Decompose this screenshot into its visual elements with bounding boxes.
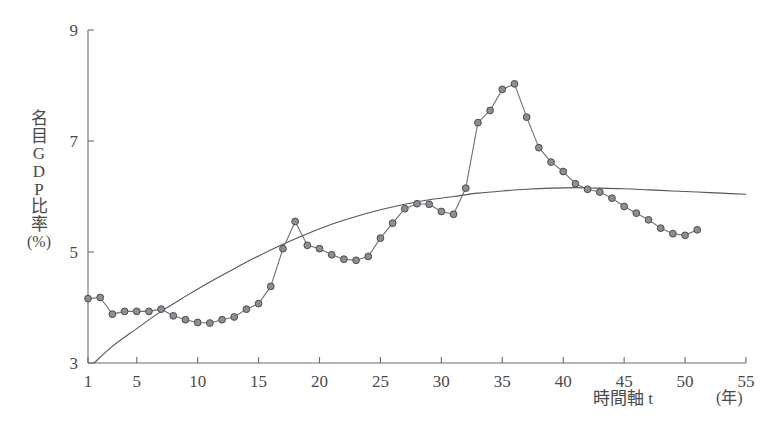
axis-ticks [88, 30, 746, 363]
data-point-marker [182, 316, 189, 323]
data-point-marker [584, 186, 591, 193]
x-tick-label: 5 [132, 372, 141, 391]
data-point-marker [609, 195, 616, 202]
data-point-marker [438, 208, 445, 215]
data-point-marker [389, 220, 396, 227]
data-point-marker [414, 200, 421, 207]
data-point-marker [633, 210, 640, 217]
y-axis-label-glyph: P [22, 181, 56, 199]
data-point-marker [146, 308, 153, 315]
x-tick-label: 15 [250, 372, 267, 391]
data-point-marker [487, 107, 494, 114]
data-point-marker [645, 216, 652, 223]
data-point-marker [304, 242, 311, 249]
data-point-marker [475, 119, 482, 126]
y-axis-label-glyph: D [22, 163, 56, 181]
data-point-marker [426, 201, 433, 208]
x-tick-label: 1 [84, 372, 93, 391]
data-point-marker [694, 226, 701, 233]
data-point-marker [535, 144, 542, 151]
data-point-marker [548, 159, 555, 166]
data-point-marker [560, 168, 567, 175]
data-point-marker [657, 225, 664, 232]
data-point-marker [243, 306, 250, 313]
trend-curve [94, 188, 746, 363]
data-point-marker [231, 314, 238, 321]
y-axis-label-glyph: 名 [22, 110, 56, 128]
y-axis-label-glyph: G [22, 145, 56, 163]
data-point-marker [158, 306, 165, 313]
data-point-marker [206, 320, 213, 327]
x-axis-label-text: 時間軸 t [593, 389, 653, 408]
x-tick-label: 20 [311, 372, 328, 391]
data-point-marker [572, 180, 579, 187]
data-point-marker [511, 80, 518, 87]
data-line-series [88, 84, 697, 323]
y-tick-label: 5 [70, 243, 79, 262]
y-axis-label-glyph: 率 [22, 216, 56, 234]
data-point-marker [596, 189, 603, 196]
data-point-marker [109, 311, 116, 318]
data-point-marker [97, 294, 104, 301]
data-point-marker [401, 205, 408, 212]
y-tick-label: 3 [70, 354, 79, 373]
data-point-marker [170, 312, 177, 319]
data-point-marker [621, 203, 628, 210]
data-point-marker [328, 251, 335, 258]
x-tick-label: 50 [677, 372, 694, 391]
y-tick-label: 9 [70, 21, 79, 40]
trend-curve-series [94, 188, 746, 363]
data-point-marker [523, 114, 530, 121]
data-point-marker [267, 283, 274, 290]
y-axis-label: 名 目 G D P 比 率 (%) [22, 110, 56, 250]
data-point-marker [133, 308, 140, 315]
data-point-marker [669, 230, 676, 237]
data-point-marker [219, 316, 226, 323]
data-point-marker [292, 218, 299, 225]
data-point-marker [85, 295, 92, 302]
data-point-marker [377, 235, 384, 242]
chart-plot-area: 35791510152025303540455055 [0, 0, 766, 427]
x-tick-label: 25 [372, 372, 389, 391]
x-tick-label: 30 [433, 372, 450, 391]
data-point-marker [682, 232, 689, 239]
x-tick-label: 40 [555, 372, 572, 391]
axes [88, 30, 746, 363]
x-axis-unit-label: (年) [716, 384, 743, 408]
data-point-marker [255, 300, 262, 307]
data-point-marker [194, 319, 201, 326]
chart-figure: 35791510152025303540455055 名 目 G D P 比 率… [0, 0, 766, 427]
data-series-line [88, 84, 697, 323]
data-point-marker [450, 211, 457, 218]
data-point-marker [353, 257, 360, 264]
x-tick-label: 10 [189, 372, 206, 391]
y-axis-label-glyph: 目 [22, 128, 56, 146]
data-point-marker [365, 253, 372, 260]
data-point-markers [85, 80, 701, 326]
data-point-marker [121, 308, 128, 315]
x-tick-label: 35 [494, 372, 511, 391]
data-point-marker [462, 185, 469, 192]
x-axis-label: 時間軸 t [593, 384, 653, 409]
data-point-marker [499, 86, 506, 93]
y-axis-unit-label: (%) [22, 234, 56, 251]
data-point-marker [280, 245, 287, 252]
data-point-marker [316, 245, 323, 252]
data-point-marker [340, 256, 347, 263]
y-tick-label: 7 [70, 132, 79, 151]
y-axis-label-glyph: 比 [22, 198, 56, 216]
